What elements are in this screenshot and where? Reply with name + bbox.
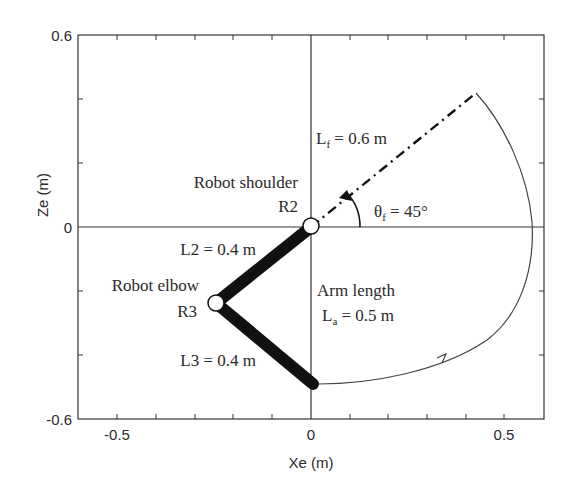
elbow-joint-label: R3	[177, 302, 197, 321]
shoulder-joint-R2	[303, 218, 319, 234]
l3-label: L3 = 0.4 m	[180, 351, 256, 370]
upper-arm-link-L2	[216, 227, 311, 303]
robot-arm-diagram: 0.6 0 -0.6 -0.5 0 0.5 Xe (m) Ze (m) Robo…	[0, 0, 573, 500]
x-tick-label-right: 0.5	[494, 426, 515, 443]
theta-label: θf = 45°	[374, 202, 428, 223]
shoulder-joint-label: R2	[278, 197, 298, 216]
shoulder-label: Robot shoulder	[194, 173, 299, 192]
y-axis-title: Ze (m)	[34, 173, 51, 217]
y-tick-label-top: 0.6	[51, 27, 72, 44]
x-axis-title: Xe (m)	[289, 454, 334, 471]
theta-sym: θ	[374, 202, 382, 221]
y-tick-label-zero: 0	[64, 219, 72, 236]
arm-length-sym: L	[322, 306, 332, 325]
l2-label: L2 = 0.4 m	[180, 240, 256, 259]
x-tick-label-left: -0.5	[104, 426, 130, 443]
elbow-joint-R3	[208, 295, 224, 311]
theta-val: = 45°	[386, 202, 428, 221]
lf-val: = 0.6 m	[330, 129, 387, 148]
x-tick-label-zero: 0	[307, 426, 315, 443]
forearm-link-L3	[216, 303, 313, 384]
y-tick-label-bottom: -0.6	[46, 411, 72, 428]
lf-sym: L	[316, 129, 326, 148]
arm-length-title: Arm length	[317, 281, 395, 300]
arm-length-val: = 0.5 m	[337, 306, 394, 325]
arm-length-value: La = 0.5 m	[322, 306, 394, 327]
lf-label: Lf = 0.6 m	[316, 129, 387, 150]
elbow-label: Robot elbow	[112, 276, 200, 295]
